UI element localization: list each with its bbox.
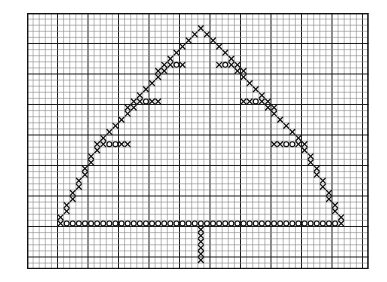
cross-stitch-chart-frame [27,13,369,269]
cross-stitch-o-symbol [186,221,191,226]
cross-stitch-o-symbol [205,221,210,226]
cross-stitch-o-symbol [174,62,179,67]
cross-stitch-o-symbol [266,221,271,226]
cross-stitch-o-symbol [253,99,258,104]
cross-stitch-o-symbol [278,221,283,226]
cross-stitch-o-symbol [174,221,179,226]
cross-stitch-o-symbol [180,221,185,226]
cross-stitch-o-symbol [150,221,155,226]
cross-stitch-o-symbol [314,221,319,226]
cross-stitch-o-symbol [284,142,289,147]
cross-stitch-o-symbol [192,221,197,226]
cross-stitch-o-symbol [107,142,112,147]
cross-stitch-o-symbol [125,221,130,226]
cross-stitch-o-symbol [211,221,216,226]
cross-stitch-o-symbol [223,62,228,67]
cross-stitch-o-symbol [162,221,167,226]
cross-stitch-o-symbol [253,221,258,226]
cross-stitch-o-symbol [113,142,118,147]
cross-stitch-o-symbol [64,221,69,226]
cross-stitch-o-symbol [284,221,289,226]
cross-stitch-o-symbol [95,221,100,226]
cross-stitch-o-symbol [89,221,94,226]
cross-stitch-o-symbol [113,221,118,226]
cross-stitch-o-symbol [217,221,222,226]
cross-stitch-o-symbol [168,221,173,226]
cross-stitch-o-symbol [296,221,301,226]
cross-stitch-o-symbol [107,221,112,226]
cross-stitch-o-symbol [320,221,325,226]
cross-stitch-o-symbol [101,221,106,226]
cross-stitch-o-symbol [83,221,88,226]
page-root [0,0,387,282]
cross-stitch-o-symbol [131,221,136,226]
cross-stitch-o-symbol [272,221,277,226]
cross-stitch-o-symbol [156,221,161,226]
cross-stitch-o-symbol [144,221,149,226]
cross-stitch-o-symbol [259,221,264,226]
cross-stitch-o-symbol [119,221,124,226]
cross-stitch-o-symbol [70,221,75,226]
cross-stitch-o-symbol [290,221,295,226]
cross-stitch-o-symbol [144,99,149,104]
cross-stitch-o-symbol [247,221,252,226]
cross-stitch-o-symbol [76,221,81,226]
cross-stitch-o-symbol [308,221,313,226]
cross-stitch-o-symbol [290,142,295,147]
cross-stitch-o-symbol [137,221,142,226]
cross-stitch-o-symbol [235,221,240,226]
cross-stitch-o-symbol [241,221,246,226]
cross-stitch-o-symbol [198,221,203,226]
cross-stitch-o-symbol [327,221,332,226]
grid-lines [27,13,369,269]
cross-stitch-o-symbol [229,221,234,226]
cross-stitch-o-symbol [223,221,228,226]
cross-stitch-chart-canvas [27,13,369,269]
cross-stitch-o-symbol [302,221,307,226]
cross-stitch-o-symbol [333,221,338,226]
